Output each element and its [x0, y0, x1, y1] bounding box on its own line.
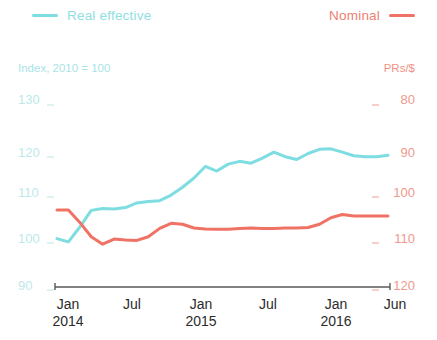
- series-line-nominal: [57, 210, 388, 244]
- x-tick-month: Jan: [325, 296, 348, 312]
- x-tick-month: Jul: [123, 296, 141, 312]
- x-tick-month: Jan: [190, 296, 213, 312]
- x-tick-jul-2014: Jul: [123, 296, 141, 313]
- exchange-rate-line-chart: Real effective Nominal Index, 2010 = 100…: [0, 0, 437, 340]
- x-axis-labels: Jan 2014 Jul Jan 2015 Jul Jan 2016 Jun: [0, 296, 437, 340]
- x-tick-month: Jun: [384, 296, 407, 312]
- x-tick-jul-2015: Jul: [259, 296, 277, 313]
- x-tick-jan-2016: Jan 2016: [320, 296, 351, 330]
- x-tick-jan-2014: Jan 2014: [52, 296, 83, 330]
- x-tick-year: 2016: [320, 313, 351, 330]
- x-tick-month: Jan: [57, 296, 80, 312]
- x-tick-jan-2015: Jan 2015: [185, 296, 216, 330]
- x-tick-jun-2016: Jun: [384, 296, 407, 313]
- plot-area: [0, 0, 437, 340]
- x-tick-month: Jul: [259, 296, 277, 312]
- x-tick-year: 2014: [52, 313, 83, 330]
- x-tick-year: 2015: [185, 313, 216, 330]
